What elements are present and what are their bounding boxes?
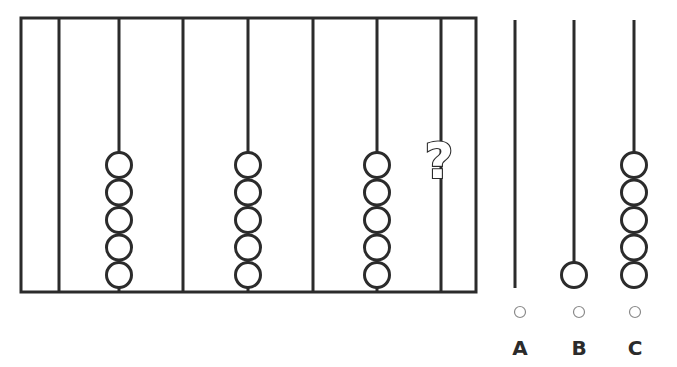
bead	[365, 208, 390, 233]
bead	[365, 235, 390, 260]
missing-value-question-mark: ?	[424, 132, 453, 190]
abacus-puzzle: ? ABC	[0, 0, 677, 367]
bead	[107, 263, 132, 288]
option-hit-area[interactable]	[549, 20, 599, 361]
bead	[236, 208, 261, 233]
option-hit-area[interactable]	[490, 20, 540, 361]
option-hit-area[interactable]	[609, 20, 659, 361]
bead	[107, 180, 132, 205]
bead	[107, 208, 132, 233]
bead	[236, 153, 261, 178]
puzzle-frame-group: ?	[21, 18, 476, 292]
bead	[365, 153, 390, 178]
bead	[236, 235, 261, 260]
option-b[interactable]: B	[549, 20, 599, 361]
bead	[365, 180, 390, 205]
bead	[365, 263, 390, 288]
bead	[107, 153, 132, 178]
bead	[236, 263, 261, 288]
option-c[interactable]: C	[609, 20, 659, 361]
bead	[236, 180, 261, 205]
answer-options: ABC	[490, 20, 659, 361]
option-a[interactable]: A	[490, 20, 540, 361]
bead	[107, 235, 132, 260]
